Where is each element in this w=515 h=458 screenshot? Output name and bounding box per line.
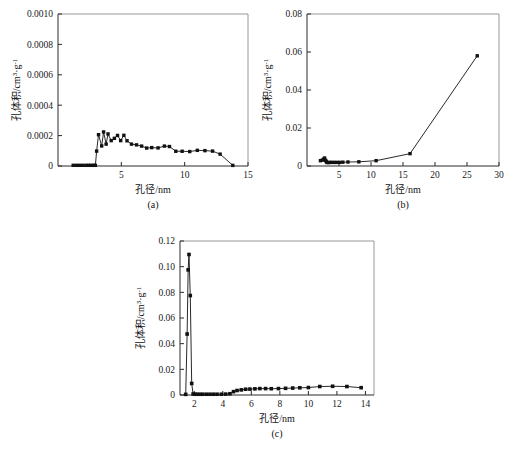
- data-point-marker: [346, 160, 349, 163]
- data-point-marker: [186, 268, 190, 272]
- y-tick-label: 0.08: [285, 9, 302, 19]
- data-point-marker: [211, 149, 214, 152]
- y-tick-label: 0.0008: [27, 40, 53, 50]
- data-point-marker: [75, 164, 78, 167]
- x-tick-label: 6: [249, 399, 254, 409]
- data-point-marker: [116, 134, 119, 137]
- data-point-marker: [374, 159, 377, 162]
- x-tick-label: 20: [430, 170, 440, 180]
- data-point-marker: [113, 137, 116, 140]
- x-axis-title: 孔径/nm: [259, 412, 295, 424]
- data-point-marker: [341, 161, 344, 164]
- data-point-marker: [145, 146, 148, 149]
- x-axis-title: 孔径/nm: [385, 183, 421, 195]
- data-point-marker: [218, 152, 221, 155]
- data-point-marker: [135, 143, 138, 146]
- data-point-marker: [231, 164, 234, 167]
- data-point-marker: [180, 150, 183, 153]
- data-point-marker: [205, 392, 209, 396]
- chart-panel-a: 00.00020.00040.00060.00080.001051015孔径/n…: [0, 0, 258, 228]
- x-axis-title: 孔径/nm: [135, 183, 171, 195]
- x-tick-label: 8: [277, 399, 282, 409]
- data-series-line: [186, 254, 361, 394]
- y-axis-title: 孔体积/cm3·g-1: [262, 59, 273, 121]
- plot-axes: [180, 241, 374, 395]
- data-point-marker: [215, 392, 219, 396]
- data-series-line: [320, 56, 477, 163]
- data-point-marker: [235, 389, 239, 393]
- data-point-marker: [72, 164, 75, 167]
- data-point-marker: [97, 133, 100, 136]
- data-point-marker: [168, 145, 171, 148]
- data-point-marker: [119, 139, 122, 142]
- x-tick-label: 12: [332, 399, 342, 409]
- data-point-marker: [100, 144, 103, 147]
- data-point-marker: [220, 392, 224, 396]
- data-point-marker: [188, 150, 191, 153]
- data-point-marker: [174, 150, 177, 153]
- data-point-marker: [331, 384, 335, 388]
- data-point-marker: [130, 142, 133, 145]
- data-point-marker: [248, 387, 252, 391]
- data-point-marker: [140, 144, 143, 147]
- data-point-marker: [269, 387, 273, 391]
- y-tick-label: 0: [170, 390, 175, 400]
- y-tick-label: 0.04: [285, 85, 302, 95]
- y-tick-label: 0.06: [158, 313, 175, 323]
- panel-b-svg: 00.020.040.060.0851015202530孔径/nm孔体积/cm3…: [257, 0, 515, 228]
- x-tick-label: 5: [119, 170, 124, 180]
- pore-size-distribution-figure: 00.00020.00040.00060.00080.001051015孔径/n…: [0, 0, 515, 458]
- x-tick-label: 15: [398, 170, 408, 180]
- panel-c-svg: 00.020.040.060.080.100.122468101214孔径/nm…: [128, 227, 400, 458]
- data-point-marker: [232, 390, 236, 394]
- data-point-marker: [190, 382, 194, 386]
- x-tick-label: 4: [220, 399, 225, 409]
- data-point-marker: [277, 387, 281, 391]
- data-point-marker: [212, 392, 216, 396]
- x-tick-label: 10: [304, 399, 314, 409]
- chart-panel-b: 00.020.040.060.0851015202530孔径/nm孔体积/cm3…: [257, 0, 515, 228]
- data-point-marker: [185, 332, 189, 336]
- data-point-marker: [188, 294, 192, 298]
- data-point-marker: [102, 130, 105, 133]
- y-tick-label: 0.12: [158, 236, 175, 246]
- y-tick-label: 0.0006: [27, 70, 53, 80]
- x-tick-label: 2: [192, 399, 197, 409]
- panel-a-svg: 00.00020.00040.00060.00080.001051015孔径/n…: [0, 0, 258, 228]
- data-point-marker: [264, 387, 268, 391]
- data-point-marker: [240, 388, 244, 392]
- data-point-marker: [104, 142, 107, 145]
- data-point-marker: [253, 387, 257, 391]
- data-point-marker: [196, 149, 199, 152]
- data-point-marker: [476, 54, 479, 57]
- data-point-marker: [156, 146, 159, 149]
- data-point-marker: [224, 392, 228, 396]
- plot-frame-outer: [180, 241, 374, 395]
- data-point-marker: [184, 393, 188, 397]
- panel-caption: (b): [397, 199, 409, 211]
- y-tick-label: 0.04: [158, 339, 175, 349]
- x-tick-label: 30: [494, 170, 504, 180]
- data-point-marker: [110, 139, 113, 142]
- data-point-marker: [163, 144, 166, 147]
- y-tick-label: 0.02: [158, 365, 175, 375]
- y-axis-title: 孔体积/cm3·g-1: [135, 287, 146, 349]
- data-point-marker: [125, 139, 128, 142]
- y-tick-label: 0.0010: [27, 9, 53, 19]
- data-point-marker: [95, 149, 98, 152]
- data-point-marker: [150, 146, 153, 149]
- data-point-marker: [338, 161, 341, 164]
- x-tick-label: 5: [337, 170, 342, 180]
- panel-caption: (a): [147, 199, 158, 211]
- plot-axes: [307, 14, 499, 166]
- x-tick-label: 14: [361, 399, 371, 409]
- panel-caption: (c): [271, 428, 282, 440]
- y-tick-label: 0.0004: [27, 101, 53, 111]
- plot-frame-outer: [307, 14, 499, 166]
- x-tick-label: 15: [243, 170, 253, 180]
- data-point-marker: [81, 164, 84, 167]
- data-point-marker: [298, 386, 302, 390]
- data-point-marker: [318, 385, 322, 389]
- y-tick-label: 0.06: [285, 47, 302, 57]
- data-point-marker: [284, 387, 288, 391]
